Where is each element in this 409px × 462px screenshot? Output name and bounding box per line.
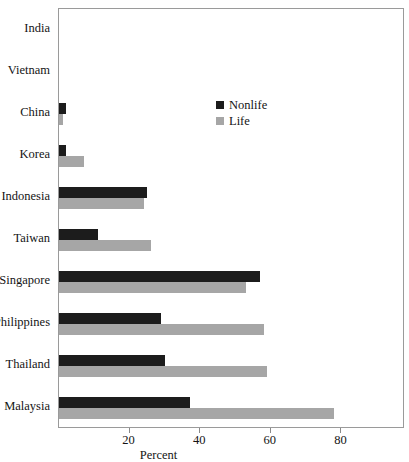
bar-taiwan-life (59, 240, 151, 251)
x-tick-label-40: 40 (193, 433, 206, 447)
bar-indonesia-nonlife (59, 187, 147, 198)
y-axis-label-vietnam: Vietnam (8, 64, 50, 77)
y-axis-label-malaysia: Malaysia (4, 400, 50, 413)
x-axis-title-text: Percent (140, 448, 177, 462)
bar-china-life (59, 114, 63, 125)
bar-china-nonlife (59, 103, 66, 114)
bar-philippines-life (59, 324, 264, 335)
y-axis-label-philippines: Philippines (0, 316, 50, 329)
plot-area (58, 8, 404, 428)
y-axis-label-china: China (20, 106, 50, 119)
x-axis-tick-labels: 20406080 (0, 433, 409, 449)
bar-malaysia-life (59, 408, 334, 419)
bar-singapore-life (59, 282, 246, 293)
bar-korea-life (59, 156, 84, 167)
bar-indonesia-life (59, 198, 144, 209)
bar-chart: IndiaVietnamChinaKoreaIndonesiaTaiwanSin… (0, 0, 409, 462)
bar-thailand-life (59, 366, 267, 377)
legend-label-nonlife: Nonlife (229, 99, 267, 112)
legend: NonlifeLife (216, 98, 267, 130)
y-axis-label-thailand: Thailand (6, 358, 50, 371)
legend-item-nonlife: Nonlife (216, 98, 267, 112)
y-axis-label-indonesia: Indonesia (1, 190, 50, 203)
y-axis-label-korea: Korea (19, 148, 50, 161)
legend-swatch-life-icon (216, 117, 224, 125)
legend-label-life: Life (229, 115, 250, 128)
y-axis-labels: IndiaVietnamChinaKoreaIndonesiaTaiwanSin… (0, 8, 54, 428)
x-tick-label-60: 60 (264, 433, 277, 447)
bar-philippines-nonlife (59, 313, 161, 324)
bar-taiwan-nonlife (59, 229, 98, 240)
x-axis-title: Percent (0, 448, 409, 462)
bar-malaysia-nonlife (59, 397, 190, 408)
x-tick-label-20: 20 (122, 433, 135, 447)
bar-korea-nonlife (59, 145, 66, 156)
y-axis-label-singapore: Singapore (0, 274, 50, 287)
legend-item-life: Life (216, 114, 267, 128)
y-axis-label-india: India (24, 22, 50, 35)
legend-swatch-nonlife-icon (216, 101, 224, 109)
y-axis-label-taiwan: Taiwan (13, 232, 50, 245)
bar-thailand-nonlife (59, 355, 165, 366)
x-tick-label-80: 80 (334, 433, 347, 447)
bar-singapore-nonlife (59, 271, 260, 282)
